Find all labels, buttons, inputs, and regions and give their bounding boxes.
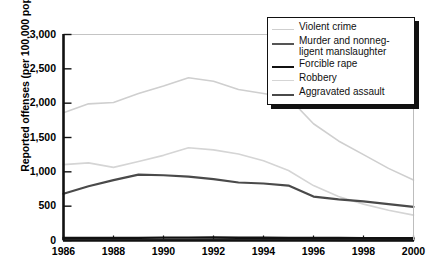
x-tick-label: 1994 (242, 245, 286, 257)
legend-line-swatch-icon (272, 74, 294, 85)
legend-item: Forcible rape (272, 58, 410, 71)
x-tick-label: 1992 (192, 245, 236, 257)
legend-item: Violent crime (272, 21, 410, 34)
x-tick-label: 1990 (142, 245, 186, 257)
legend-item-label: Robbery (299, 72, 337, 83)
y-tick-label: 3,000 (16, 28, 56, 40)
legend-item: Murder and nonneg-ligent manslaughter (272, 35, 410, 57)
x-tick-label: 1986 (42, 245, 86, 257)
x-tick-label: 1988 (92, 245, 136, 257)
x-tick-label: 1998 (342, 245, 386, 257)
y-tick-label: 500 (16, 199, 56, 211)
legend-line-swatch-icon (272, 23, 294, 34)
y-tick-label: 1,000 (16, 165, 56, 177)
legend-item-label: Murder and nonneg-ligent manslaughter (299, 35, 390, 57)
legend-line-swatch-icon (272, 60, 294, 71)
y-tick-label: 1,500 (16, 131, 56, 143)
legend-item: Aggravated assault (272, 86, 410, 99)
legend-line-swatch-icon (272, 88, 294, 99)
legend-item-label: Violent crime (299, 21, 357, 32)
series-line (64, 175, 414, 207)
chart-legend: Violent crimeMurder and nonneg-ligent ma… (267, 17, 415, 105)
crime-rate-line-chart: Reported offenses (per 100,000 populatio… (0, 0, 436, 262)
x-tick-label: 1996 (292, 245, 336, 257)
legend-item: Robbery (272, 72, 410, 85)
legend-item-label: Forcible rape (299, 58, 357, 69)
x-tick-label: 2000 (392, 245, 436, 257)
y-tick-label: 2,000 (16, 96, 56, 108)
legend-item-label: Aggravated assault (299, 86, 385, 97)
legend-line-swatch-icon (272, 37, 294, 48)
series-line (64, 238, 414, 239)
y-tick-label: 2,500 (16, 62, 56, 74)
